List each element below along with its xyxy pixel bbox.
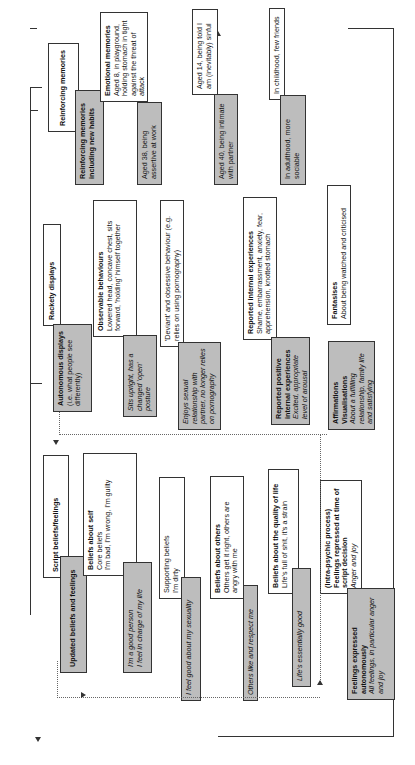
beliefs-others-updated-box: Others like and respect me [243,585,258,701]
connector-solid [30,88,31,615]
arrow-head-icon [35,737,41,742]
quality-life-updated-box: Life's essentially good [292,568,311,687]
intra-psychic-process-box: (Intra-psychic process) Feelings repress… [320,480,362,594]
connector-solid [348,28,394,29]
connector-dotted [59,434,327,435]
emotional-memories-updated-box: Aged 38, being assertive at work [137,102,162,185]
beliefs-self-updated-box: I'm a good person I feel in charge of my… [123,562,152,673]
connector-solid [218,736,394,737]
emotional-memories-box: Emotional memories Aged 8, in playground… [100,12,148,102]
feelings-expressed-box: Feelings expressed autonomously All feel… [347,588,395,700]
autonomous-displays-box: Autonomous displays (i.e. what people se… [53,324,92,412]
supporting-updated-box: I feel good about my sexuality [181,577,201,701]
childhood-memory-box: In childhood, few friends [269,8,285,100]
connector-solid [30,110,38,111]
aged-14-memory-box: Aged 14, being told I am (inevitably) si… [192,9,218,95]
connector-solid [30,87,42,88]
beliefs-about-self-box: Beliefs about self Core beliefs I'm bad,… [83,453,137,576]
affirmations-box: Affirmations Visualisations About a fulf… [328,341,375,430]
connector-solid [30,28,37,29]
connector-dotted [320,435,321,685]
connector-dotted [57,697,320,698]
observable-updated-box: Sits upright, has a changed 'open' postu… [123,335,157,417]
rackety-displays-header: Rackety displays [43,224,61,326]
beliefs-about-others-box: Beliefs about others Others get it right… [210,476,244,599]
arrow-head-icon [317,680,323,685]
adulthood-memory-box: In adulthood, more sociable [280,95,306,185]
connector-dotted [57,661,58,698]
reinforcing-memories-updated-header: Reinforcing memories including new habit… [75,90,104,185]
connector-solid [30,383,42,384]
arrow-head-icon [81,692,86,698]
fantasises-box: Fantasises About being watched and criti… [327,185,351,325]
deviant-behaviour-box: 'Deviant' and obsessive behaviour (e.g. … [160,200,184,347]
script-system-diagram: Reinforcing memories Reinforcing memorie… [0,0,415,765]
deviant-updated-box: Enjoys sexual relationship with partner,… [178,342,221,430]
aged-40-memory-box: Aged 40, being intimate with partner [214,94,238,185]
positive-internal-box: Reported positive internal experiences E… [271,337,310,425]
arrow-head-icon [53,440,59,445]
internal-experiences-box: Reported internal experiences Shame, emb… [243,197,277,340]
observable-behaviours-box: Observable behaviours Lowered head, conc… [93,200,137,337]
